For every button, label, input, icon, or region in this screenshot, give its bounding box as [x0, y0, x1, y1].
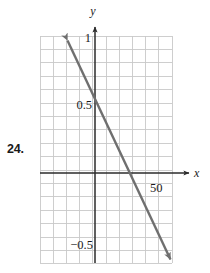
y-axis-label: y: [89, 4, 96, 18]
graph-figure: 24.: [0, 0, 210, 273]
x-tick-label-50: 50: [150, 181, 163, 195]
x-axis-label: x: [193, 166, 200, 180]
coordinate-plane: y x 1 0.5 −0.5 50: [0, 0, 210, 273]
grid-vertical-lines: [40, 36, 172, 263]
y-tick-label-negative-0point5: −0.5: [70, 238, 93, 252]
y-tick-label-1: 1: [85, 31, 91, 45]
y-tick-label-0point5: 0.5: [76, 98, 92, 112]
